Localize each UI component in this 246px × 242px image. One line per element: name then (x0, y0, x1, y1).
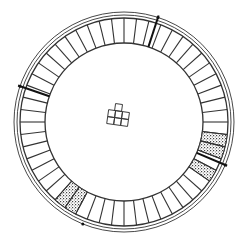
spoke (76, 30, 88, 52)
spoke (202, 109, 227, 112)
outer-ring (14, 12, 234, 232)
center-grid (107, 103, 131, 127)
spoke (176, 181, 193, 200)
hatched-cells (55, 132, 227, 215)
band-outer-ring (20, 18, 228, 226)
spoke (23, 141, 47, 147)
spoke (201, 97, 225, 103)
spoke (161, 192, 173, 214)
spoke (87, 196, 96, 219)
spoke (23, 97, 47, 103)
band-inner-ring (45, 43, 203, 201)
spoke (32, 74, 54, 86)
ring-marker (81, 222, 84, 225)
ring-marker (224, 163, 227, 166)
spoke (111, 19, 114, 44)
spoke (21, 109, 46, 112)
spoke (169, 36, 183, 57)
circular-plan-diagram (0, 0, 246, 242)
spoke (176, 44, 193, 63)
spoke (21, 132, 46, 135)
spoke (194, 74, 216, 86)
spoke (189, 63, 210, 77)
spoke (46, 174, 65, 191)
spoke (55, 44, 72, 63)
spoke (27, 150, 50, 159)
ring-marker (18, 85, 21, 88)
spoke (38, 63, 59, 77)
spoke (32, 159, 54, 171)
bold-spoke (148, 15, 158, 46)
spoke (111, 200, 114, 225)
spoke (152, 25, 161, 48)
spoke (143, 21, 149, 45)
center-grid-group (107, 103, 131, 127)
spoke (38, 167, 59, 181)
outer-ring (17, 15, 231, 229)
concentric-rings (14, 12, 234, 232)
spoke (152, 196, 161, 219)
spoke (161, 30, 173, 52)
spoke (134, 19, 137, 44)
spoke (134, 200, 137, 225)
spoke (46, 53, 65, 70)
bold-spoke (18, 86, 49, 97)
spoke (99, 21, 105, 45)
spoke (65, 36, 79, 57)
spoke (87, 25, 96, 48)
spoke (99, 199, 105, 223)
ring-marker (156, 16, 159, 19)
spoke (183, 174, 202, 191)
spoke (169, 187, 183, 208)
spoke (198, 85, 221, 94)
spoke (183, 53, 202, 70)
grid-cell (121, 119, 129, 127)
spoke (143, 199, 149, 223)
